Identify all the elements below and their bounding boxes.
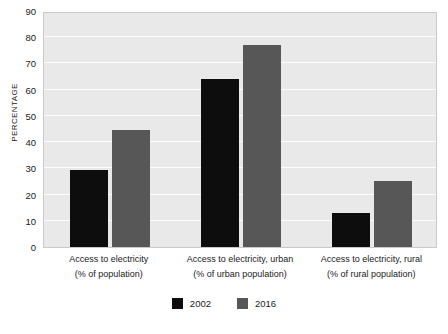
legend-label: 2016: [255, 299, 276, 309]
y-axis-tick-label: 70: [8, 60, 36, 70]
category-labels: Access to electricity(% of population)Ac…: [43, 252, 437, 292]
y-axis-tick-label: 60: [8, 86, 36, 96]
y-axis-tick-label: 50: [8, 112, 36, 122]
y-axis-tick-label: 20: [8, 191, 36, 201]
bar-2016-group-3: [374, 181, 412, 247]
bar-2002-group-1: [70, 170, 108, 247]
bar-2002-group-2: [201, 79, 239, 247]
category-label-line2: (% of urban population): [174, 267, 305, 282]
bar-chart: PERCENTAGE 9080706050403020100 Access to…: [0, 0, 448, 334]
legend-swatch-icon: [237, 298, 248, 309]
category-label-line2: (% of population): [43, 267, 174, 282]
bar-2016-group-1: [112, 130, 150, 247]
bar-2016-group-2: [243, 45, 281, 247]
y-axis-tick-label: 80: [8, 33, 36, 43]
y-axis-tick-label: 10: [8, 217, 36, 227]
legend-swatch-icon: [172, 298, 183, 309]
category-label-line2: (% of rural population): [306, 267, 437, 282]
category-label-line1: Access to electricity, rural: [321, 254, 422, 264]
legend-item-2016[interactable]: 2016: [237, 298, 276, 309]
bars-layer: [44, 13, 436, 247]
category-label-1: Access to electricity(% of population): [43, 252, 174, 281]
y-axis-tick-label: 40: [8, 138, 36, 148]
y-axis-tick-label: 0: [8, 243, 36, 253]
category-label-line1: Access to electricity: [69, 254, 148, 264]
y-axis-tick-label: 30: [8, 165, 36, 175]
legend-item-2002[interactable]: 2002: [172, 298, 211, 309]
category-label-line1: Access to electricity, urban: [187, 254, 293, 264]
category-label-2: Access to electricity, urban(% of urban …: [174, 252, 305, 281]
category-label-3: Access to electricity, rural(% of rural …: [306, 252, 437, 281]
plot-area: [43, 12, 437, 248]
y-axis-tick-label: 90: [8, 7, 36, 17]
bar-2002-group-3: [332, 213, 370, 247]
legend-label: 2002: [190, 299, 211, 309]
legend: 20022016: [0, 298, 448, 309]
gridline: [44, 10, 436, 11]
